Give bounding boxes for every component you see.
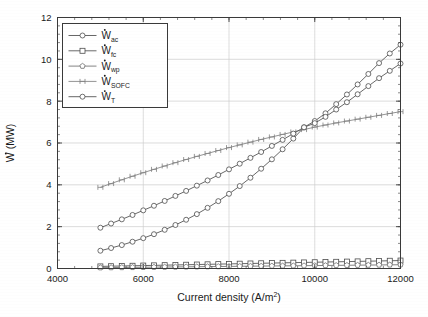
- y-tick-label: 2: [46, 221, 51, 232]
- marker-circle: [269, 157, 274, 162]
- legend-dot-accent: [104, 44, 106, 46]
- marker-circle: [291, 136, 296, 141]
- marker-circle: [141, 236, 146, 241]
- marker-circle: [216, 173, 221, 178]
- marker-circle: [366, 84, 371, 89]
- marker-circle: [302, 125, 307, 130]
- marker-circle: [344, 100, 349, 105]
- marker-circle: [377, 76, 382, 81]
- marker-circle: [355, 82, 360, 87]
- marker-circle: [248, 155, 253, 160]
- marker-circle: [227, 191, 232, 196]
- marker-circle: [205, 205, 210, 210]
- marker-circle: [162, 198, 167, 203]
- y-tick-label: 8: [46, 96, 51, 107]
- marker-square: [80, 48, 85, 53]
- marker-circle: [80, 94, 85, 99]
- marker-circle: [377, 61, 382, 66]
- y-tick-label: 6: [46, 137, 51, 148]
- marker-circle: [334, 107, 339, 112]
- y-axis-title-unit: (MW): [4, 124, 16, 150]
- x-tick-label: 6000: [133, 273, 154, 284]
- legend-dot-accent: [104, 75, 106, 77]
- x-tick-labels: 4000600080001000012000: [47, 273, 414, 284]
- marker-circle: [387, 51, 392, 56]
- marker-circle: [184, 188, 189, 193]
- marker-circle: [80, 33, 85, 38]
- marker-circle: [151, 203, 156, 208]
- legend-label-subscript: SOFC: [111, 82, 130, 89]
- marker-circle: [130, 212, 135, 217]
- marker-circle: [162, 227, 167, 232]
- y-tick-label: 12: [41, 12, 52, 23]
- legend-dot-accent: [104, 60, 106, 62]
- figure-canvas: 0246810124000600080001000012000Current d…: [0, 0, 428, 317]
- marker-circle: [151, 232, 156, 237]
- legend-label-subscript: wp: [110, 66, 120, 74]
- y-axis-title-text: W(MW): [4, 124, 16, 163]
- marker-circle: [280, 147, 285, 152]
- legend: WacWfcWwpWSOFCWT: [63, 24, 168, 108]
- marker-circle: [323, 114, 328, 119]
- legend-label-subscript: ac: [111, 36, 119, 43]
- marker-circle: [280, 137, 285, 142]
- x-tick-label: 12000: [387, 273, 413, 284]
- x-axis-title-base: Current density (A/m: [177, 291, 274, 303]
- y-axis-title: W(MW): [4, 124, 16, 163]
- x-axis-title-tail: ): [277, 291, 281, 303]
- x-axis-title: Current density (A/m2): [177, 291, 281, 303]
- legend-label-subscript: T: [111, 97, 115, 104]
- x-axis-title-text: Current density (A/m2): [177, 291, 281, 303]
- x-tick-label: 10000: [302, 273, 328, 284]
- marker-circle: [141, 208, 146, 213]
- chart-svg: 0246810124000600080001000012000Current d…: [0, 0, 428, 317]
- marker-circle: [334, 102, 339, 107]
- marker-circle: [109, 246, 114, 251]
- marker-circle: [98, 248, 103, 253]
- marker-circle: [194, 212, 199, 217]
- marker-circle: [237, 184, 242, 189]
- marker-circle: [312, 121, 317, 126]
- marker-circle: [173, 193, 178, 198]
- marker-circle: [173, 222, 178, 227]
- marker-circle: [237, 161, 242, 166]
- marker-circle: [130, 239, 135, 244]
- marker-circle: [98, 225, 103, 230]
- y-axis-dot-accent: [5, 153, 7, 155]
- marker-circle: [227, 167, 232, 172]
- marker-circle: [119, 243, 124, 248]
- marker-circle: [269, 143, 274, 148]
- marker-circle: [366, 71, 371, 76]
- x-tick-label: 4000: [47, 273, 68, 284]
- marker-circle: [291, 131, 296, 136]
- y-tick-labels: 024681012: [41, 12, 52, 274]
- marker-circle: [259, 166, 264, 171]
- marker-circle: [259, 149, 264, 154]
- x-tick-label: 8000: [218, 273, 239, 284]
- marker-circle: [344, 92, 349, 97]
- y-tick-label: 10: [41, 54, 52, 65]
- marker-circle: [387, 68, 392, 73]
- marker-circle: [248, 175, 253, 180]
- marker-circle: [109, 221, 114, 226]
- y-tick-label: 4: [46, 179, 51, 190]
- marker-circle: [216, 199, 221, 204]
- legend-dot-accent: [104, 90, 106, 92]
- marker-circle: [355, 92, 360, 97]
- marker-circle: [205, 178, 210, 183]
- legend-label-subscript: fc: [111, 51, 117, 58]
- marker-circle: [119, 217, 124, 222]
- marker-circle: [184, 217, 189, 222]
- legend-dot-accent: [104, 29, 106, 31]
- marker-circle: [194, 183, 199, 188]
